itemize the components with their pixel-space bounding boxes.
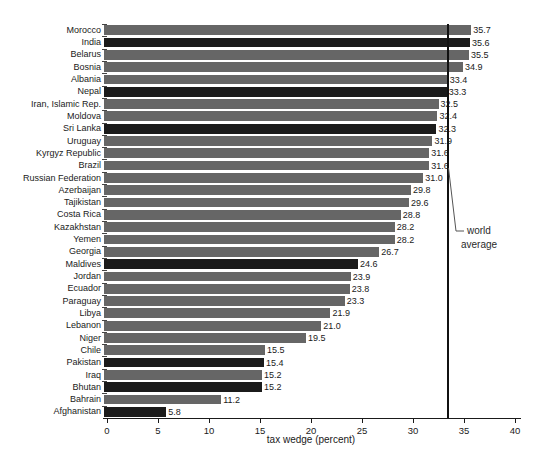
tax-wedge-bar-chart: Morocco35.7India35.6Belarus35.5Bosnia34.… xyxy=(0,0,546,460)
world-average-label-line1: world xyxy=(467,224,491,237)
world-average-label-line2: average xyxy=(461,238,497,251)
world-average-connector xyxy=(0,0,546,460)
